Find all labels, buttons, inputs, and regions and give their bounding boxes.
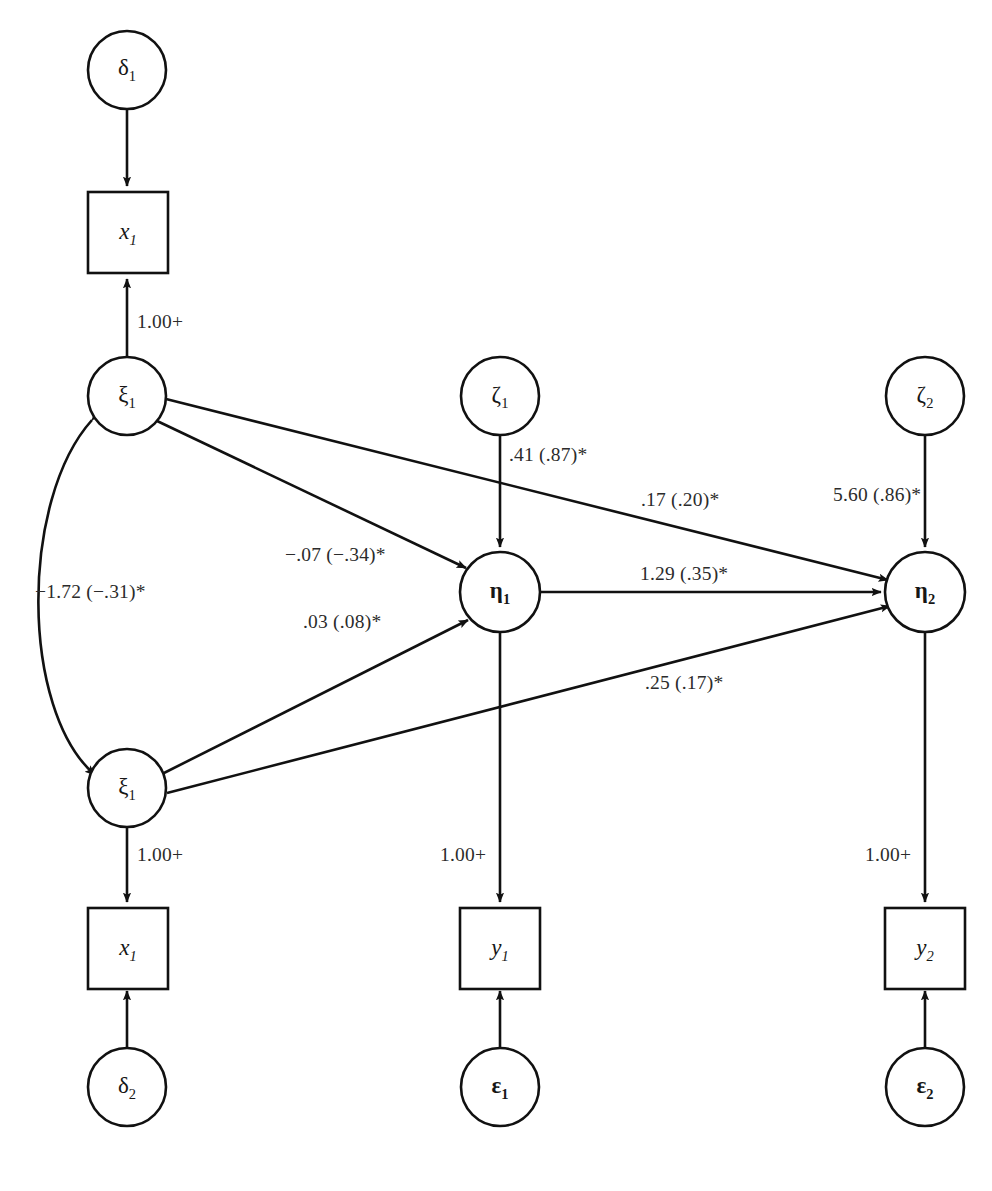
- node-label-delta1: δ1: [118, 55, 136, 85]
- node-label-y1: y1: [491, 935, 508, 965]
- node-label-zeta1: ζ1: [492, 382, 509, 412]
- node-label-xi-bottom: ξ1: [118, 774, 136, 804]
- node-label-zeta2: ζ2: [917, 382, 934, 412]
- node-label-epsilon2: ε2: [916, 1073, 933, 1103]
- edge-label-xi-bottom-to-x1: 1.00+: [137, 844, 183, 866]
- node-label-x1-top: x1: [119, 219, 136, 249]
- edge-label-xi-top-to-eta1: −.07 (−.34)*: [285, 544, 386, 566]
- node-label-xi-top: ξ1: [118, 382, 136, 412]
- node-label-eta1: η1: [490, 578, 510, 608]
- edge-xi-top-to-eta2: [166, 399, 888, 580]
- node-label-delta2: δ2: [118, 1073, 136, 1103]
- node-label-x1-bottom: x1: [119, 935, 136, 965]
- edge-xi-bottom-to-eta1: [160, 620, 468, 775]
- sem-path-diagram: δ1 x1 ξ1 ζ1 ζ2 η1 η2 ξ1 x1 y1 y2 δ2 ε1 ε…: [0, 0, 992, 1191]
- edge-label-xi-top-to-x1: 1.00+: [137, 311, 183, 333]
- node-label-epsilon1: ε1: [491, 1073, 508, 1103]
- edge-xi-bottom-to-eta2: [167, 606, 890, 793]
- edge-label-xi-top-to-eta2: .17 (.20)*: [641, 489, 719, 511]
- edge-label-eta1-to-y1: 1.00+: [440, 844, 486, 866]
- edge-label-xi-bottom-to-eta1: .03 (.08)*: [303, 611, 381, 633]
- edge-label-eta1-to-eta2: 1.29 (.35)*: [640, 563, 728, 585]
- edge-label-eta2-to-y2: 1.00+: [865, 844, 911, 866]
- node-label-eta2: η2: [915, 578, 935, 608]
- edge-label-xi-bottom-to-eta2: .25 (.17)*: [645, 672, 723, 694]
- edge-label-zeta2-to-eta2: 5.60 (.86)*: [833, 484, 921, 506]
- edge-label-zeta1-to-eta1: .41 (.87)*: [509, 444, 587, 466]
- node-label-y2: y2: [916, 935, 933, 965]
- edge-label-xi-covariance: −1.72 (−.31)*: [35, 581, 146, 603]
